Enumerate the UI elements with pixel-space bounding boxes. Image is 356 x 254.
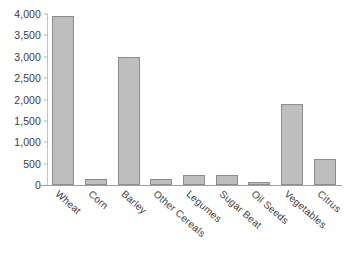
bar bbox=[314, 159, 336, 185]
bar-slot bbox=[308, 14, 341, 185]
x-tick-label: Barley bbox=[119, 189, 148, 216]
bar bbox=[216, 175, 238, 185]
x-label-slot: Wheat bbox=[47, 187, 80, 249]
bar-slot bbox=[112, 14, 145, 185]
x-label-slot: Legumes bbox=[178, 187, 211, 249]
bar-slot bbox=[145, 14, 178, 185]
x-axis-line bbox=[41, 185, 342, 186]
bar bbox=[150, 179, 172, 185]
x-label-slot: Other Cereals bbox=[145, 187, 178, 249]
y-tick-label: 2,500 bbox=[14, 73, 41, 84]
y-tick-label: 500 bbox=[23, 158, 41, 169]
x-axis-labels: WheatCornBarleyOther CerealsLegumesSugar… bbox=[47, 187, 341, 249]
x-label-slot: Corn bbox=[80, 187, 113, 249]
bar bbox=[85, 179, 107, 185]
bar-slot bbox=[243, 14, 276, 185]
bar bbox=[183, 175, 205, 185]
bar-series bbox=[47, 14, 341, 185]
bar bbox=[248, 182, 270, 185]
x-tick-label: Wheat bbox=[54, 189, 83, 216]
y-tick-label: 3,500 bbox=[14, 30, 41, 41]
x-label-slot: Vegetables bbox=[276, 187, 309, 249]
y-tick-label: 4,000 bbox=[14, 9, 41, 20]
bar bbox=[52, 16, 74, 185]
y-tick-label: 0 bbox=[35, 180, 41, 191]
x-label-slot: Barley bbox=[112, 187, 145, 249]
plot-area: 05001,0001,5002,0002,5003,0003,5004,000 bbox=[47, 14, 341, 185]
bar-slot bbox=[178, 14, 211, 185]
x-tick-label: Corn bbox=[86, 189, 110, 211]
bar-slot bbox=[47, 14, 80, 185]
bar-chart: 05001,0001,5002,0002,5003,0003,5004,000 … bbox=[0, 0, 356, 254]
y-tick-label: 2,000 bbox=[14, 94, 41, 105]
bar-slot bbox=[210, 14, 243, 185]
x-label-slot: Oil Seeds bbox=[243, 187, 276, 249]
cropped-title-remnant bbox=[0, 0, 356, 7]
bar bbox=[118, 57, 140, 185]
x-tick-label: Citrus bbox=[315, 189, 342, 214]
bar bbox=[281, 104, 303, 185]
x-label-slot: Citrus bbox=[308, 187, 341, 249]
bar-slot bbox=[80, 14, 113, 185]
bar-slot bbox=[276, 14, 309, 185]
y-tick-label: 1,000 bbox=[14, 137, 41, 148]
y-tick-label: 3,000 bbox=[14, 52, 41, 63]
x-label-slot: Sugar Beat bbox=[210, 187, 243, 249]
y-tick-label: 1,500 bbox=[14, 116, 41, 127]
